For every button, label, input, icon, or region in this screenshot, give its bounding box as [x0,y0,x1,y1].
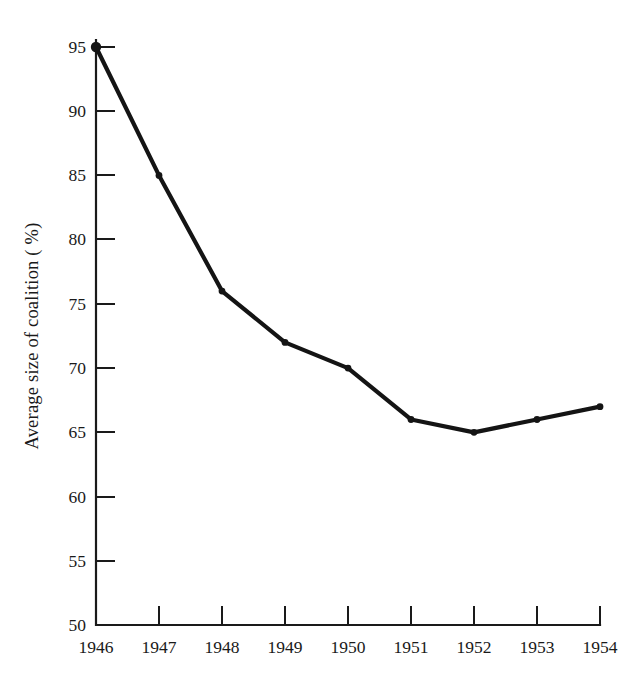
y-tick-label: 65 [69,422,87,442]
data-point [408,416,415,423]
data-point [597,403,604,410]
chart-figure: Average size of coalition ( %) 95 90 85 … [0,0,644,682]
data-point [534,416,541,423]
data-point [91,42,101,52]
y-tick-label: 60 [69,487,87,507]
y-tick-label: 70 [69,358,87,378]
y-tick-label: 90 [69,101,87,121]
x-tick-label: 1953 [520,637,555,657]
x-tick-label: 1949 [268,637,303,657]
data-point [156,172,163,179]
y-tick-label: 95 [69,37,87,57]
data-point [219,288,226,295]
x-tick-labels: 1946 1947 1948 1949 1950 1951 1952 1953 … [79,637,618,657]
data-point [345,365,352,372]
x-tick-label: 1947 [142,637,177,657]
data-point [471,429,478,436]
data-point [282,339,289,346]
x-tick-label: 1948 [205,637,240,657]
x-tick-label: 1950 [331,637,366,657]
x-tick-label: 1946 [79,637,114,657]
x-tick-label: 1952 [457,637,492,657]
x-tick-label: 1954 [583,637,618,657]
y-tick-label: 80 [69,229,87,249]
y-tick-label: 55 [69,551,87,571]
y-axis-title: Average size of coalition ( %) [22,222,43,449]
x-tick-label: 1951 [394,637,429,657]
y-tick-label: 75 [69,294,87,314]
y-tick-label: 50 [69,615,87,635]
line-chart: Average size of coalition ( %) 95 90 85 … [0,0,644,682]
y-tick-label: 85 [69,165,87,185]
